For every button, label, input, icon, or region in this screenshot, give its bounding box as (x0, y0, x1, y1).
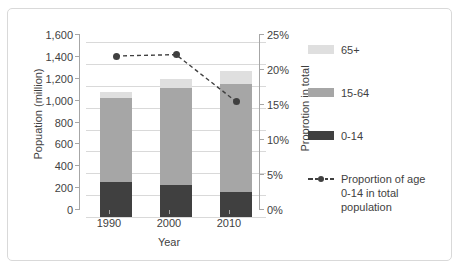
y2-tick-label-15: 15% (267, 99, 301, 111)
y2-axis-title: Proprotion in total (299, 36, 312, 181)
y2-tick-label-25: 25% (267, 29, 301, 41)
x-tick-label-1990: 1990 (79, 217, 139, 229)
y-axis-line (79, 34, 80, 210)
y-tick-1600 (75, 34, 79, 35)
legend-item-0-14[interactable]: 0-14 (308, 129, 363, 143)
y-tick-200 (75, 187, 79, 188)
y2-tick-label-5: 5% (267, 169, 301, 181)
y2-axis-line (259, 34, 260, 210)
y-tick-label-0: 0 (13, 204, 73, 216)
legend-label-proportion-line-1: Proportion of age (341, 172, 425, 186)
legend-label-15-64: 15-64 (341, 86, 369, 100)
legend-label-0-14: 0-14 (341, 129, 363, 143)
x-tick-2000 (169, 210, 170, 214)
legend-swatch-0-14 (308, 131, 334, 140)
y-tick-800 (75, 122, 79, 123)
y2-tick-10 (260, 139, 264, 140)
y-tick-600 (75, 143, 79, 144)
line-series-proportion-0-14 (86, 42, 266, 217)
x-tick-label-2000: 2000 (139, 217, 199, 229)
y2-tick-label-20: 20% (267, 64, 301, 76)
line-path (116, 55, 236, 102)
y2-tick-label-10: 10% (267, 134, 301, 146)
data-point-2000[interactable] (173, 51, 180, 58)
legend-item-65plus[interactable]: 65+ (308, 43, 360, 57)
y2-tick-5 (260, 174, 264, 175)
legend-label-65plus: 65+ (341, 43, 360, 57)
y2-tick-20 (260, 69, 264, 70)
y-tick-0 (75, 209, 79, 210)
x-tick-label-2010: 2010 (199, 217, 259, 229)
legend-swatch-65plus (308, 45, 334, 54)
y2-tick-15 (260, 104, 264, 105)
y-tick-1400 (75, 56, 79, 57)
x-tick-1990 (109, 210, 110, 214)
plot-area (86, 42, 266, 217)
y2-tick-label-0: 0% (267, 204, 301, 216)
y2-tick-0 (260, 209, 264, 210)
chart-container: 1,600 1,400 1,200 1,000 800 600 400 200 … (7, 8, 452, 261)
legend-item-proportion-line[interactable]: Proportion of age 0-14 in total populati… (308, 172, 425, 214)
data-point-2010[interactable] (233, 98, 240, 105)
legend-item-15-64[interactable]: 15-64 (308, 86, 369, 100)
y2-tick-25 (260, 34, 264, 35)
legend-line-marker-icon (308, 173, 334, 185)
legend-label-proportion-line-3: population (341, 200, 425, 214)
legend-label-proportion-line-2: 0-14 in total (341, 186, 425, 200)
y-tick-1000 (75, 100, 79, 101)
x-axis-title: Year (79, 236, 259, 248)
legend-swatch-15-64 (308, 88, 334, 97)
y-axis-title: Popuation (million) (32, 24, 45, 204)
data-point-1990[interactable] (113, 53, 120, 60)
y-tick-1200 (75, 78, 79, 79)
y-tick-400 (75, 165, 79, 166)
x-tick-2010 (229, 210, 230, 214)
